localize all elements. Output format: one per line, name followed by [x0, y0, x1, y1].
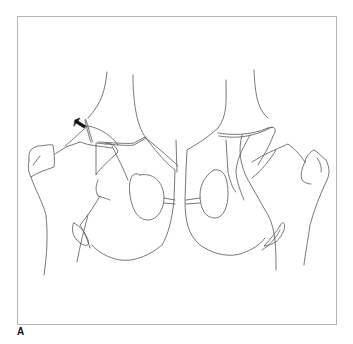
left-symphysis-bar [164, 198, 175, 200]
left-greater-troch [96, 180, 110, 200]
right-femur-shaft-right [254, 70, 268, 118]
left-shaft-lower [80, 196, 100, 248]
panel-label: A [17, 326, 24, 337]
left-iliac-wing [28, 145, 54, 177]
right-femur-shaft-left [218, 80, 226, 128]
left-obturator-foramen [129, 174, 164, 220]
right-ilium-line [252, 144, 305, 162]
hip-line-drawing [0, 0, 353, 344]
left-femoral-neck [96, 143, 118, 175]
right-pubis-outer [185, 128, 265, 255]
right-neck-line [240, 135, 276, 270]
left-iliac-body [31, 177, 47, 275]
right-symphysis-bar [186, 198, 200, 200]
left-rim-fragment [85, 120, 92, 142]
right-ilium [258, 127, 275, 165]
right-obturator-foramen [200, 170, 228, 218]
arrow-icon [74, 118, 86, 128]
right-joint-line-2 [219, 127, 272, 137]
right-joint-line [218, 128, 268, 134]
right-symphysis-bar-2 [186, 203, 200, 204]
right-iliac-detail [317, 158, 321, 172]
left-joint-line [96, 138, 146, 145]
left-iliac-detail [33, 156, 40, 165]
left-femur-shaft-right [133, 75, 178, 166]
left-femur-shaft-left [88, 72, 107, 118]
left-pubis-outer [92, 138, 175, 260]
left-neck-line [112, 146, 128, 180]
right-iliac-notch [301, 162, 311, 184]
right-iliac-wing [304, 150, 329, 265]
right-lesser-troch [264, 223, 285, 246]
left-inner-line [176, 140, 177, 172]
